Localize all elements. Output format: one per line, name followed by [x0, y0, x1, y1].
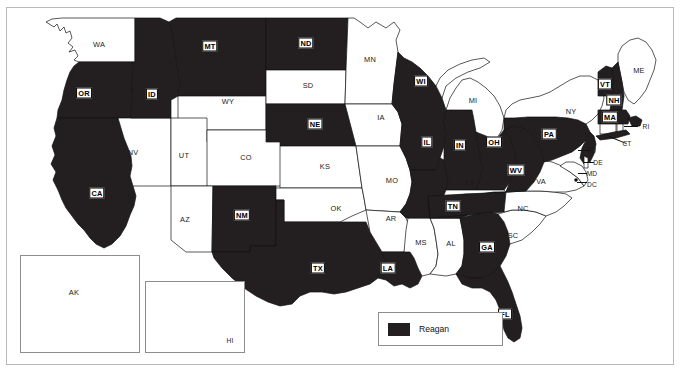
state-NY[interactable] [504, 76, 604, 124]
alaska-inset[interactable] [20, 255, 140, 353]
state-label-in: IN [454, 140, 466, 151]
callout-label-de: DE [593, 158, 603, 167]
state-label-me: ME [633, 66, 645, 75]
callout-label-dc: DC [587, 180, 597, 189]
state-label-pa: PA [542, 129, 557, 140]
state-label-wa: WA [93, 40, 105, 49]
state-label-ok: OK [330, 204, 341, 213]
leader-line-de [584, 162, 594, 163]
leader-line-nj [578, 150, 590, 151]
callout-label-md: MD [587, 169, 598, 178]
state-label-wv: WV [508, 165, 525, 176]
state-label-ar: AR [386, 214, 397, 223]
state-label-mi: MI [469, 96, 478, 105]
state-label-sc: SC [508, 231, 519, 240]
state-label-nv: NV [128, 148, 139, 157]
state-label-wy: WY [222, 97, 234, 106]
state-label-il: IL [421, 137, 432, 148]
state-OR[interactable] [57, 62, 133, 118]
state-MA-cape [628, 116, 642, 126]
state-label-tn: TN [446, 201, 461, 212]
state-label-nd: ND [298, 38, 313, 49]
state-label-ne: NE [307, 119, 322, 130]
state-label-nh: NH [606, 95, 621, 106]
state-label-oh: OH [486, 137, 502, 148]
state-label-al: AL [446, 239, 455, 248]
state-label-ks: KS [320, 162, 330, 171]
state-label-sd: SD [303, 81, 314, 90]
state-label-co: CO [240, 153, 252, 162]
state-AZ[interactable] [171, 186, 213, 252]
state-CA[interactable] [51, 118, 136, 248]
state-label-va: VA [536, 177, 546, 186]
state-label-az: AZ [180, 215, 190, 224]
state-label-ca: CA [89, 188, 104, 199]
map-legend: Reagan [378, 312, 503, 346]
state-label-tx: TX [311, 263, 325, 274]
leader-line-ri [624, 126, 638, 127]
state-label-mt: MT [202, 41, 217, 52]
state-label-ut: UT [179, 151, 189, 160]
state-label-mn: MN [364, 55, 376, 64]
state-MO[interactable] [356, 146, 412, 212]
state-label-ia: IA [377, 113, 384, 122]
legend-label-reagan: Reagan [419, 324, 449, 334]
state-label-ky: KY [465, 178, 475, 187]
state-label-nm: NM [234, 210, 250, 221]
state-label-la: LA [381, 263, 396, 274]
inset-label-hi: HI [227, 336, 234, 345]
state-label-ga: GA [479, 242, 495, 253]
inset-label-ak: AK [69, 288, 79, 297]
callout-label-ri: RI [643, 122, 650, 131]
leader-line-md [578, 173, 587, 174]
state-label-ma: MA [602, 112, 618, 123]
map-screenshot: .st{stroke:#111;stroke-width:.7;stroke-l… [0, 0, 683, 387]
state-label-or: OR [76, 88, 92, 99]
state-label-ms: MS [415, 238, 427, 247]
leader-line-dc [577, 182, 587, 183]
legend-swatch-reagan [388, 323, 410, 336]
state-label-vt: VT [598, 79, 612, 90]
state-WA[interactable] [46, 18, 135, 62]
state-label-mo: MO [386, 176, 398, 185]
state-label-nc: NC [517, 204, 528, 213]
state-label-id: ID [146, 89, 158, 100]
state-OK[interactable] [276, 188, 366, 222]
state-MT[interactable] [169, 18, 266, 96]
state-label-wi: WI [414, 76, 428, 87]
state-label-ny: NY [566, 107, 577, 116]
